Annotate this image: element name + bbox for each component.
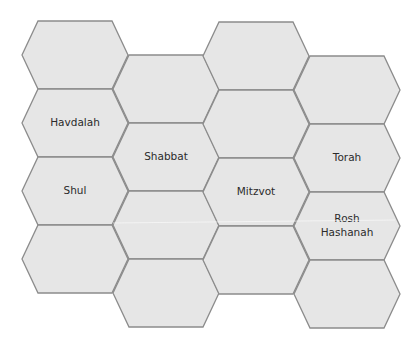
hex-cell [113, 55, 219, 123]
hex-cell: Shul [22, 157, 128, 225]
hex-cell: Havdalah [22, 89, 128, 157]
hex-label: Rosh [334, 212, 359, 224]
hexagon-shape [203, 90, 309, 158]
hex-label: Shabbat [144, 150, 188, 162]
hexagon-shape [113, 55, 219, 123]
hexagon-shape [22, 225, 128, 293]
hex-cell [22, 225, 128, 293]
hexagon-shape [294, 56, 400, 124]
hex-label: Torah [332, 151, 361, 163]
hex-label: Mitzvot [237, 185, 275, 197]
hex-cell [294, 260, 400, 328]
hexagon-shape [203, 226, 309, 294]
hex-cell: Shabbat [113, 123, 219, 191]
hex-cell: Mitzvot [203, 158, 309, 226]
hex-cell [294, 56, 400, 124]
hex-cell [203, 22, 309, 90]
hex-cell [113, 259, 219, 327]
hex-cell [22, 21, 128, 89]
hexagon-shape [294, 260, 400, 328]
hex-cell [203, 226, 309, 294]
hexagon-shape [22, 21, 128, 89]
hex-label: Hashanah [321, 226, 374, 238]
hex-label: Shul [64, 184, 87, 196]
hexagon-grid: HavdalahShulShabbatMitzvotTorahRoshHasha… [0, 0, 419, 345]
hexagon-shape [113, 259, 219, 327]
hex-cell [203, 90, 309, 158]
hexagon-shape [113, 191, 219, 259]
hex-cell [113, 191, 219, 259]
hex-cell: Torah [294, 124, 400, 192]
hex-label: Havdalah [50, 116, 100, 128]
hexagon-shape [203, 22, 309, 90]
hex-cell: RoshHashanah [294, 192, 400, 260]
